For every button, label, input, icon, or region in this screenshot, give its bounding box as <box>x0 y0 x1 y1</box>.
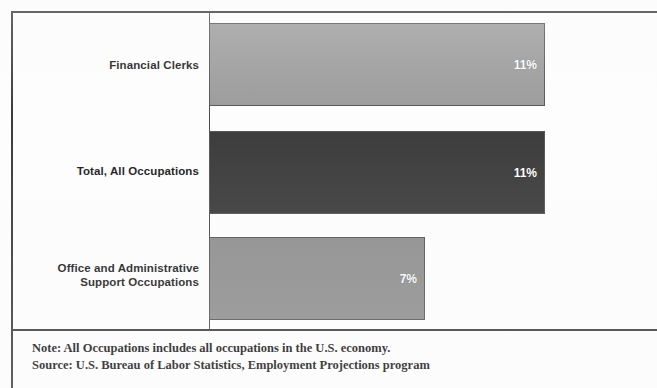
category-label: Office and Administrative Support Occupa… <box>13 261 199 289</box>
footnotes-block: Note: All Occupations includes all occup… <box>32 340 632 374</box>
bar-financial-clerks: 11% <box>209 23 545 106</box>
category-label: Total, All Occupations <box>13 164 199 178</box>
bar-value-label: 11% <box>514 58 537 72</box>
chart-source: Source: U.S. Bureau of Labor Statistics,… <box>32 357 632 374</box>
category-label-line1: Financial Clerks <box>109 59 199 71</box>
category-label-line1: Total, All Occupations <box>77 165 199 177</box>
bar-total-all-occupations: 11% <box>209 131 545 214</box>
bar-chart-figure: Financial Clerks 11% Total, All Occupati… <box>0 0 657 388</box>
chart-row: Office and Administrative Support Occupa… <box>13 224 657 329</box>
category-label-line2: Support Occupations <box>80 276 199 288</box>
bar-office-admin-support: 7% <box>209 237 425 320</box>
chart-row: Financial Clerks 11% <box>13 13 657 118</box>
bar-value-label: 11% <box>514 166 537 180</box>
chart-row: Total, All Occupations 11% <box>13 118 657 224</box>
category-label: Financial Clerks <box>13 58 199 72</box>
plot-area: Financial Clerks 11% Total, All Occupati… <box>13 13 657 329</box>
category-label-line1: Office and Administrative <box>58 262 199 274</box>
footnote-divider-rule <box>12 329 657 331</box>
chart-note: Note: All Occupations includes all occup… <box>32 340 632 357</box>
bar-value-label: 7% <box>400 272 417 286</box>
